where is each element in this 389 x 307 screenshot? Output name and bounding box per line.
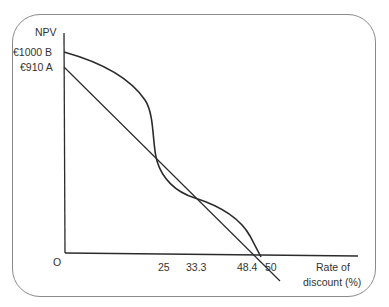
series-a-line xyxy=(64,67,280,281)
origin-label: O xyxy=(53,257,61,268)
x-tick-25: 25 xyxy=(158,262,170,273)
y-tick-a: €910 A xyxy=(20,62,53,73)
x-tick-48-4: 48.4 xyxy=(237,262,257,273)
x-tick-50: 50 xyxy=(265,262,277,273)
x-axis xyxy=(65,253,358,256)
y-axis xyxy=(64,33,65,253)
y-axis-label: NPV xyxy=(35,27,57,38)
x-axis-label-line2: discount (%) xyxy=(303,277,361,288)
x-axis-label-line1: Rate of xyxy=(316,262,350,273)
y-tick-b: €1000 B xyxy=(13,47,52,58)
series-b-curve xyxy=(64,52,261,257)
x-tick-33-3: 33.3 xyxy=(186,262,206,273)
